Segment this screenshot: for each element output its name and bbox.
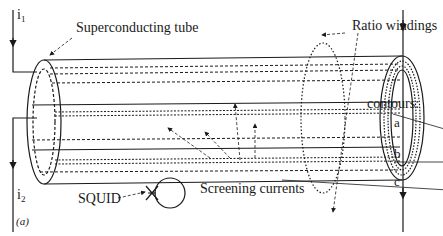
current-i2-label: i2	[17, 188, 25, 204]
contour-b-label: b	[394, 147, 401, 160]
screening-currents-label: Screening currents	[200, 182, 305, 196]
squid-label: SQUID	[78, 192, 121, 206]
squid-junction-icon	[146, 186, 158, 200]
ratio-windings-label: Ratio windings	[352, 19, 437, 33]
cryogenic-current-comparator-diagram	[0, 0, 443, 236]
contours-heading: contours:	[367, 97, 419, 111]
panel-label: (a)	[16, 216, 29, 227]
tube-label: Superconducting tube	[76, 21, 198, 35]
tube-right-end	[380, 56, 424, 180]
contour-a-label: a	[394, 116, 400, 129]
current-i1-label: i1	[17, 8, 25, 24]
tube-top-edge	[44, 56, 402, 60]
contour-c-label: c	[394, 175, 400, 188]
tube-left-end	[27, 60, 61, 184]
